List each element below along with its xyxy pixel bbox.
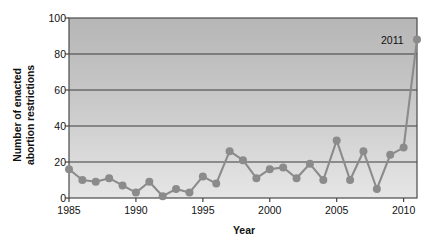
x-tick-label: 1990 — [113, 205, 159, 216]
x-tick-label: 2000 — [247, 205, 293, 216]
x-axis-title: Year — [69, 224, 419, 236]
x-tick-label: 1985 — [46, 205, 92, 216]
x-tick-label: 2005 — [314, 205, 360, 216]
x-tick-label: 2010 — [381, 205, 427, 216]
point-annotation-2011: 2011 — [381, 34, 404, 46]
abortion-restrictions-line-chart: Number of enacted abortion restrictions … — [0, 0, 437, 251]
x-tick-label: 1995 — [180, 205, 226, 216]
x-axis-tick-labels: 198519901995200020052010 — [0, 0, 437, 251]
